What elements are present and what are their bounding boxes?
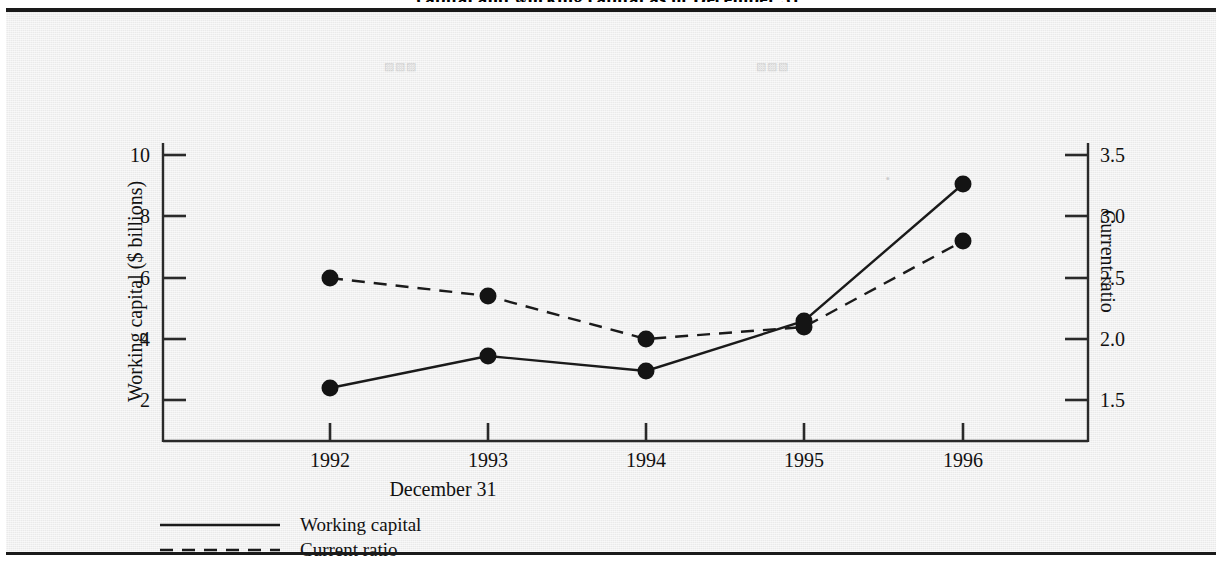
left-axis-title: Working capital ($ billions) <box>124 181 147 402</box>
series-current-ratio-line <box>330 241 963 339</box>
cut-off-heading: capital and working capital as of Decemb… <box>0 0 1222 2</box>
legend-swatch-solid-line <box>158 519 282 531</box>
scan-smudge-mid: ▧▨▧ <box>756 60 789 73</box>
right-axis-ticks <box>1065 155 1088 400</box>
x-tick-label-1993: 1993 <box>448 449 528 472</box>
legend-label-working-capital: Working capital <box>300 515 421 534</box>
legend-label-current-ratio: Current ratio <box>300 540 398 559</box>
x-axis-ticks <box>330 423 963 441</box>
scan-smudge-low: ▪ <box>886 172 891 184</box>
x-tick-label-1992: 1992 <box>290 449 370 472</box>
right-tick-label-3-5: 3.5 <box>1100 144 1140 167</box>
left-axis-ticks <box>163 155 186 400</box>
scan-smudge-left: ▨▧▨ <box>384 60 417 73</box>
legend-item-current-ratio: Current ratio <box>158 537 421 562</box>
x-tick-label-1995: 1995 <box>764 449 844 472</box>
bottom-rule <box>6 552 1216 555</box>
right-axis-title: Current ratio <box>1096 210 1119 313</box>
figure-container: capital and working capital as of Decemb… <box>0 0 1222 573</box>
x-tick-label-1996: 1996 <box>923 449 1003 472</box>
series-working-capital-markers <box>322 176 972 397</box>
legend-item-working-capital: Working capital <box>158 512 421 537</box>
chart-panel: ▨▧▨ ▧▨▧ ▪ 10 8 6 4 2 3.5 3.0 2.5 2.0 1.5… <box>6 12 1216 552</box>
x-axis-title: December 31 <box>0 478 1054 501</box>
right-tick-label-1-5: 1.5 <box>1100 389 1140 412</box>
right-tick-label-2-0: 2.0 <box>1100 328 1140 351</box>
left-tick-label-10: 10 <box>110 144 150 167</box>
series-working-capital-line <box>330 184 963 388</box>
x-tick-label-1994: 1994 <box>606 449 686 472</box>
